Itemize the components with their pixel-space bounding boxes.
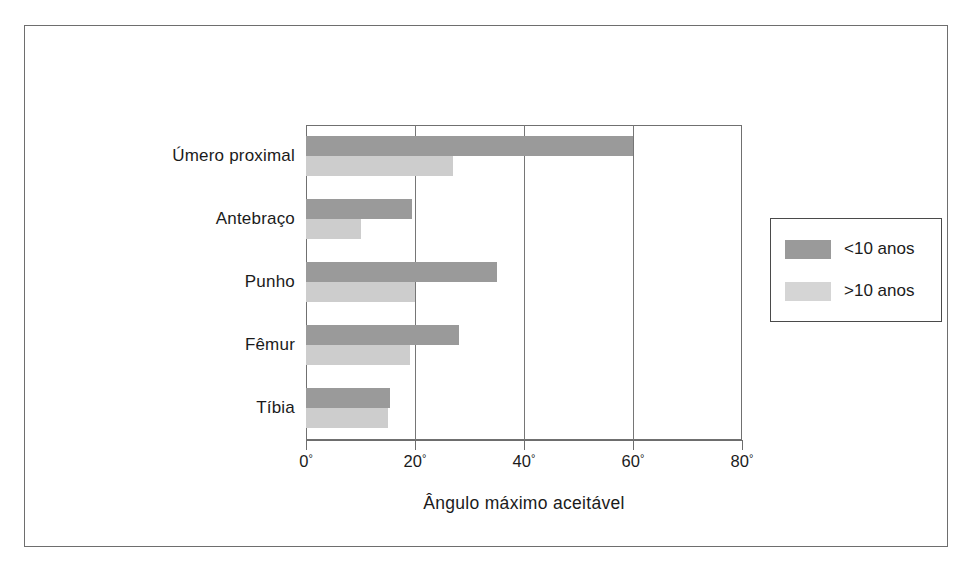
x-tick-label-40: 40° [489, 452, 559, 471]
category-label-punho: Punho [35, 272, 295, 292]
bar [306, 345, 410, 365]
bar-group [306, 188, 742, 251]
category-label-femur: Fêmur [35, 335, 295, 355]
bar-group [306, 251, 742, 314]
category-label-umero-proximal: Úmero proximal [35, 146, 295, 166]
legend-label-over-10: >10 anos [844, 281, 914, 301]
bar [306, 156, 453, 176]
bar-group [306, 377, 742, 440]
bar [306, 219, 361, 239]
bar-group [306, 314, 742, 377]
bar [306, 325, 459, 345]
x-axis-title: Ângulo máximo aceitável [306, 493, 742, 514]
x-tick-label-80: 80° [707, 452, 777, 471]
legend-entry-under-10: <10 anos [785, 238, 914, 260]
bar [306, 408, 388, 428]
legend-swatch-icon-over-10 [785, 282, 831, 301]
bar [306, 199, 412, 219]
x-tick-0 [306, 440, 307, 450]
legend-swatch-icon-under-10 [785, 240, 831, 259]
x-tick-40 [524, 440, 525, 450]
bar [306, 136, 633, 156]
bar [306, 262, 497, 282]
legend-entry-over-10: >10 anos [785, 280, 914, 302]
category-label-antebraco: Antebraço [35, 209, 295, 229]
x-tick-80 [742, 440, 743, 450]
category-label-tibia: Tíbia [35, 398, 295, 418]
x-tick-label-20: 20° [380, 452, 450, 471]
bar [306, 388, 390, 408]
figure-frame: Úmero proximal Antebraço Punho Fêmur Tíb… [24, 25, 948, 547]
x-tick-label-60: 60° [598, 452, 668, 471]
plot-area [306, 125, 742, 440]
category-axis-labels: Úmero proximal Antebraço Punho Fêmur Tíb… [25, 125, 295, 440]
bar [306, 282, 415, 302]
legend-label-under-10: <10 anos [844, 239, 914, 259]
x-tick-label-0: 0° [271, 452, 341, 471]
legend: <10 anos >10 anos [770, 218, 942, 322]
bar-group [306, 125, 742, 188]
x-tick-20 [415, 440, 416, 450]
x-tick-60 [633, 440, 634, 450]
